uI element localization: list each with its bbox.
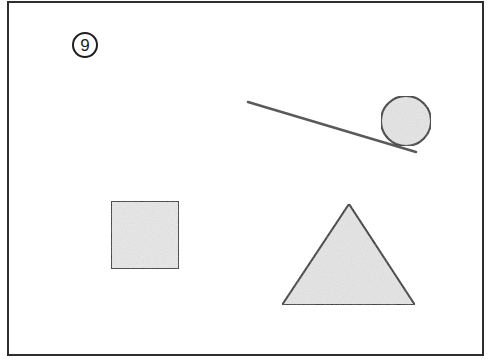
- square-shape: [111, 201, 179, 269]
- figure-label: 9: [80, 36, 89, 55]
- triangle-shape: [282, 204, 415, 305]
- figure-label-badge: 9: [73, 33, 97, 57]
- drawing-canvas: 9: [0, 0, 489, 363]
- ball-circle: [381, 96, 431, 146]
